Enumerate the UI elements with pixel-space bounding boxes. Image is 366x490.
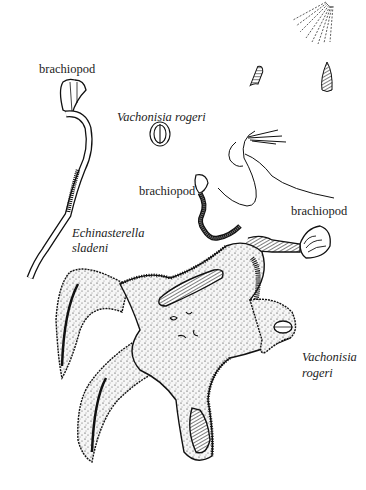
label-echinasterella-line1: Echinasterella <box>72 226 144 240</box>
fossil-illustration: brachiopod Vachonisia rogeri brachiopod … <box>0 0 366 490</box>
vachonisia-oval-icon <box>150 122 170 146</box>
starfish-echinasterella-icon <box>56 243 296 462</box>
label-vachonisia-bottom-line2: rogeri <box>302 366 333 380</box>
label-vachonisia-bottom-line1: Vachonisia <box>302 350 357 364</box>
label-echinasterella-line2: sladeni <box>72 241 108 255</box>
brachiopod-middle-icon <box>195 175 240 239</box>
label-vachonisia-rogeri-top: Vachonisia rogeri <box>117 110 206 124</box>
thin-strands-icon <box>218 130 334 206</box>
label-brachiopod-right: brachiopod <box>291 204 347 218</box>
label-brachiopod-top-left: brachiopod <box>39 62 95 76</box>
shell-fragment-icon <box>248 62 332 92</box>
label-brachiopod-middle: brachiopod <box>139 184 195 198</box>
fan-fragment-icon <box>293 2 333 44</box>
